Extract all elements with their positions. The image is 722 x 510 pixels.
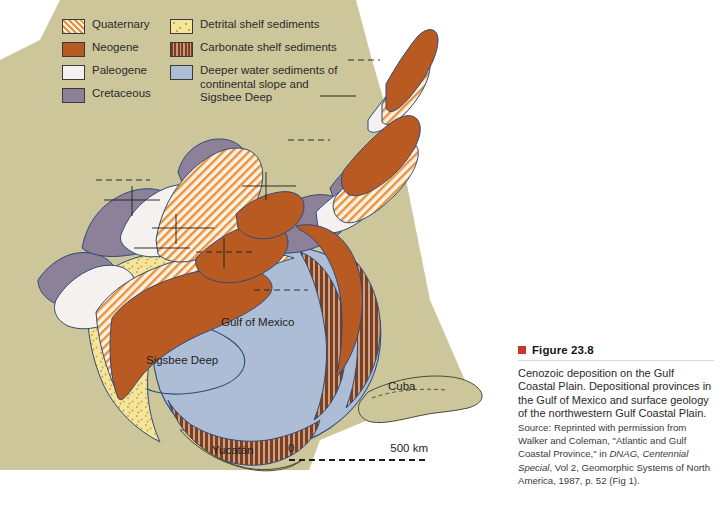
map-scale-bar: 0 500 km <box>288 442 428 457</box>
figure-caption-block: Figure 23.8 Cenozoic deposition on the G… <box>518 344 714 488</box>
legend-item-paleogene: Paleogene <box>62 64 151 82</box>
map-label-yucatan: Yucatán <box>212 444 254 456</box>
figure-page: Gulf of Mexico Sigsbee Deep Cuba Yucatán… <box>0 0 722 510</box>
page-white-bottom <box>0 470 500 495</box>
map-label-sigsbee-deep: Sigsbee Deep <box>146 354 218 366</box>
legend-item-detrital-shelf-sediments: Detrital shelf sediments <box>170 18 337 36</box>
legend-item-deeper-water-sediments: Deeper water sediments of continental sl… <box>170 64 337 105</box>
caption-divider <box>518 360 714 361</box>
legend-swatch-paleogene <box>62 65 85 80</box>
figure-number-label: Figure 23.8 <box>532 344 594 356</box>
figure-caption-text: Cenozoic deposition on the Gulf Coastal … <box>518 367 714 488</box>
legend-column-right: Detrital shelf sediments Carbonate shelf… <box>170 18 337 110</box>
map-label-gulf-of-mexico: Gulf of Mexico <box>221 316 295 328</box>
legend-item-neogene: Neogene <box>62 41 151 59</box>
legend-label-carbonate-shelf-sediments: Carbonate shelf sediments <box>200 41 337 55</box>
legend-label-deeper-water-sediments: Deeper water sediments of continental sl… <box>200 64 337 105</box>
figure-marker-square <box>518 346 526 354</box>
legend-swatch-detrital-shelf-sediments <box>170 19 193 34</box>
legend-swatch-deeper-water-sediments <box>170 65 193 80</box>
scale-bar-line <box>289 459 425 461</box>
legend-column-left: Quaternary Neogene Paleogene Cretaceous <box>62 18 151 110</box>
caption-source-prefix: Source: <box>518 422 551 433</box>
legend-label-neogene: Neogene <box>92 41 139 55</box>
legend-item-carbonate-shelf-sediments: Carbonate shelf sediments <box>170 41 337 59</box>
scale-bar-labels: 0 500 km <box>288 442 428 457</box>
legend-label-quaternary: Quaternary <box>92 18 150 32</box>
legend-swatch-quaternary <box>62 19 85 34</box>
scale-label-zero: 0 <box>288 442 294 454</box>
caption-main-text: Cenozoic deposition on the Gulf Coastal … <box>518 367 711 419</box>
legend-swatch-carbonate-shelf-sediments <box>170 42 193 57</box>
legend-swatch-neogene <box>62 42 85 57</box>
legend-label-cretaceous: Cretaceous <box>92 87 151 101</box>
map-label-cuba: Cuba <box>388 380 416 392</box>
legend-item-quaternary: Quaternary <box>62 18 151 36</box>
scale-label-max: 500 km <box>390 442 428 454</box>
legend-swatch-cretaceous <box>62 88 85 103</box>
map-panel: Gulf of Mexico Sigsbee Deep Cuba Yucatán… <box>0 0 500 495</box>
legend-label-paleogene: Paleogene <box>92 64 147 78</box>
legend-label-detrital-shelf-sediments: Detrital shelf sediments <box>200 18 320 32</box>
figure-caption-header: Figure 23.8 <box>518 344 714 356</box>
legend-item-cretaceous: Cretaceous <box>62 87 151 105</box>
